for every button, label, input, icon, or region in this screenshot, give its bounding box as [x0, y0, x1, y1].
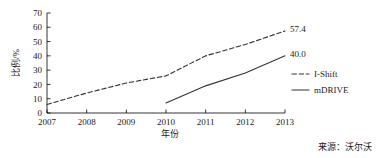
legend-item-i-shift: I-Shift [292, 69, 338, 79]
data-point-labels: 57.440.0 [290, 24, 306, 59]
chart-legend: I-ShiftmDRIVE [292, 69, 349, 95]
x-tick-label: 2008 [78, 117, 97, 127]
y-tick-label: 30 [33, 65, 43, 75]
y-axis-title: 比例/% [10, 48, 21, 77]
x-tick-label: 2013 [276, 117, 295, 127]
x-tick-label: 2011 [197, 117, 215, 127]
legend-item-mdrive: mDRIVE [292, 85, 349, 95]
legend-label: mDRIVE [314, 85, 349, 95]
x-tick-label: 2009 [117, 117, 136, 127]
y-axis-tick-marks [47, 13, 51, 113]
legend-label: I-Shift [314, 69, 338, 79]
x-tick-label: 2010 [157, 117, 176, 127]
y-tick-label: 40 [33, 51, 43, 61]
chart-axes [47, 13, 285, 113]
x-axis-tick-marks [47, 110, 285, 114]
x-axis-title: 年份 [161, 128, 179, 139]
chart-canvas: 010203040506070 200720082009201020112012… [0, 0, 378, 158]
data-series-group [47, 31, 285, 104]
y-axis-tick-labels: 010203040506070 [33, 8, 43, 118]
y-tick-label: 50 [33, 37, 43, 47]
value-label-mdrive: 40.0 [290, 49, 306, 59]
line-chart: 010203040506070 200720082009201020112012… [0, 0, 378, 158]
y-tick-label: 20 [33, 80, 43, 90]
y-tick-label: 70 [33, 8, 43, 18]
y-tick-label: 10 [33, 94, 43, 104]
x-tick-label: 2012 [236, 117, 254, 127]
y-tick-label: 60 [33, 22, 43, 32]
series-line-i-shift [47, 31, 285, 104]
x-axis-tick-labels: 2007200820092010201120122013 [38, 117, 295, 127]
series-line-mdrive [166, 56, 285, 103]
value-label-i-shift: 57.4 [290, 24, 306, 34]
source-note: 来源：沃尔沃 [318, 141, 372, 152]
x-tick-label: 2007 [38, 117, 57, 127]
